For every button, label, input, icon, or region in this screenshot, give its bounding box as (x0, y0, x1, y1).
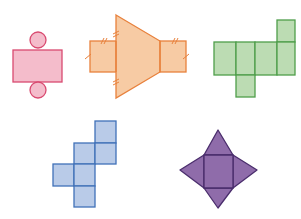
cylinder-net (13, 32, 62, 98)
cylinder-lateral-rect (13, 50, 62, 82)
prism-triangles (116, 15, 160, 98)
green-cube-net (214, 20, 295, 97)
nets-diagram (0, 0, 301, 219)
blue-cube-net (53, 121, 116, 207)
cylinder-bottom-circle (30, 82, 46, 98)
cylinder-top-circle (30, 32, 46, 48)
square-pyramid-net (180, 130, 257, 208)
triangular-prism-net (85, 15, 189, 98)
